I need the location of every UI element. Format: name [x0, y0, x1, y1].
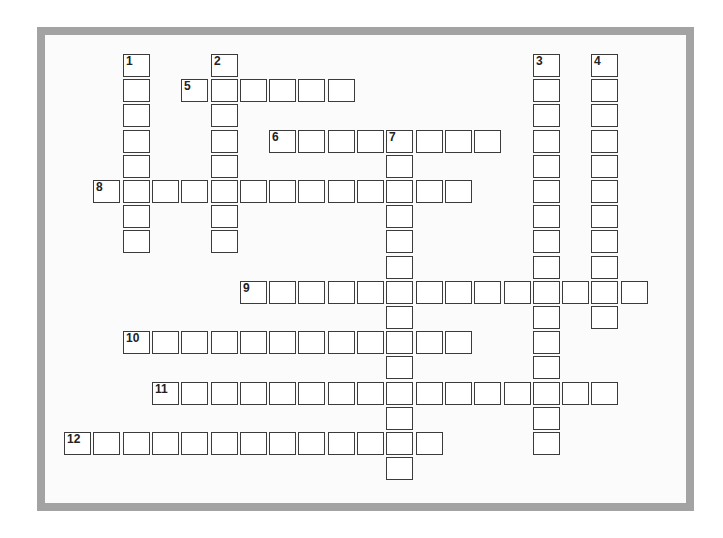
crossword-cell[interactable]	[328, 180, 355, 203]
crossword-cell[interactable]	[123, 432, 150, 455]
crossword-cell[interactable]	[123, 104, 150, 127]
crossword-cell[interactable]	[591, 281, 618, 304]
crossword-cell[interactable]	[211, 331, 238, 354]
crossword-cell[interactable]: 1	[123, 54, 150, 77]
crossword-cell[interactable]	[533, 104, 560, 127]
crossword-cell[interactable]	[416, 331, 443, 354]
crossword-cell[interactable]	[357, 382, 384, 405]
crossword-cell[interactable]	[357, 281, 384, 304]
crossword-cell[interactable]	[562, 382, 589, 405]
crossword-cell[interactable]	[123, 230, 150, 253]
crossword-cell[interactable]	[591, 205, 618, 228]
crossword-cell[interactable]	[211, 104, 238, 127]
crossword-cell[interactable]	[298, 79, 325, 102]
crossword-cell[interactable]	[240, 331, 267, 354]
crossword-cell[interactable]	[386, 407, 413, 430]
crossword-cell[interactable]	[328, 130, 355, 153]
crossword-cell[interactable]	[445, 331, 472, 354]
crossword-cell[interactable]	[211, 180, 238, 203]
crossword-cell[interactable]: 9	[240, 281, 267, 304]
crossword-cell[interactable]	[445, 180, 472, 203]
crossword-cell[interactable]: 3	[533, 54, 560, 77]
crossword-cell[interactable]	[386, 281, 413, 304]
crossword-cell[interactable]	[386, 230, 413, 253]
crossword-cell[interactable]	[386, 306, 413, 329]
crossword-cell[interactable]	[591, 230, 618, 253]
crossword-cell[interactable]	[152, 180, 179, 203]
crossword-cell[interactable]	[123, 79, 150, 102]
crossword-cell[interactable]	[328, 382, 355, 405]
crossword-cell[interactable]	[591, 155, 618, 178]
crossword-cell[interactable]	[240, 180, 267, 203]
crossword-cell[interactable]	[386, 331, 413, 354]
crossword-cell[interactable]	[386, 432, 413, 455]
crossword-cell[interactable]	[357, 130, 384, 153]
crossword-cell[interactable]	[416, 180, 443, 203]
crossword-cell[interactable]	[591, 382, 618, 405]
crossword-cell[interactable]	[357, 180, 384, 203]
crossword-cell[interactable]	[562, 281, 589, 304]
crossword-cell[interactable]	[386, 356, 413, 379]
crossword-cell[interactable]	[93, 432, 120, 455]
crossword-cell[interactable]	[386, 155, 413, 178]
crossword-cell[interactable]: 7	[386, 130, 413, 153]
crossword-cell[interactable]	[533, 155, 560, 178]
crossword-cell[interactable]	[298, 382, 325, 405]
crossword-cell[interactable]	[269, 432, 296, 455]
crossword-cell[interactable]	[591, 130, 618, 153]
crossword-cell[interactable]	[591, 256, 618, 279]
crossword-cell[interactable]	[416, 281, 443, 304]
crossword-cell[interactable]	[533, 205, 560, 228]
crossword-cell[interactable]	[211, 79, 238, 102]
crossword-cell[interactable]	[123, 130, 150, 153]
crossword-cell[interactable]	[123, 155, 150, 178]
crossword-cell[interactable]	[211, 230, 238, 253]
crossword-cell[interactable]	[328, 79, 355, 102]
crossword-cell[interactable]	[328, 281, 355, 304]
crossword-cell[interactable]	[123, 180, 150, 203]
crossword-cell[interactable]	[445, 281, 472, 304]
crossword-cell[interactable]	[298, 432, 325, 455]
crossword-cell[interactable]	[211, 382, 238, 405]
crossword-cell[interactable]	[298, 180, 325, 203]
crossword-cell[interactable]	[328, 432, 355, 455]
crossword-cell[interactable]	[357, 331, 384, 354]
crossword-cell[interactable]	[152, 432, 179, 455]
crossword-cell[interactable]	[533, 130, 560, 153]
crossword-cell[interactable]	[591, 180, 618, 203]
crossword-cell[interactable]	[533, 180, 560, 203]
crossword-cell[interactable]	[298, 331, 325, 354]
crossword-cell[interactable]	[533, 356, 560, 379]
crossword-cell[interactable]	[152, 331, 179, 354]
crossword-cell[interactable]	[416, 432, 443, 455]
crossword-cell[interactable]	[533, 256, 560, 279]
crossword-cell[interactable]	[298, 130, 325, 153]
crossword-cell[interactable]	[211, 155, 238, 178]
crossword-cell[interactable]	[591, 306, 618, 329]
crossword-cell[interactable]: 5	[181, 79, 208, 102]
crossword-cell[interactable]	[474, 281, 501, 304]
crossword-cell[interactable]	[416, 130, 443, 153]
crossword-cell[interactable]	[386, 457, 413, 480]
crossword-cell[interactable]	[211, 432, 238, 455]
crossword-cell[interactable]	[504, 281, 531, 304]
crossword-cell[interactable]: 12	[64, 432, 91, 455]
crossword-cell[interactable]	[269, 79, 296, 102]
crossword-cell[interactable]	[269, 331, 296, 354]
crossword-cell[interactable]	[211, 205, 238, 228]
crossword-cell[interactable]	[298, 281, 325, 304]
crossword-cell[interactable]	[357, 432, 384, 455]
crossword-cell[interactable]	[328, 331, 355, 354]
crossword-cell[interactable]	[123, 205, 150, 228]
crossword-cell[interactable]	[533, 281, 560, 304]
crossword-cell[interactable]	[533, 331, 560, 354]
crossword-cell[interactable]	[386, 180, 413, 203]
crossword-cell[interactable]	[445, 382, 472, 405]
crossword-cell[interactable]	[211, 130, 238, 153]
crossword-cell[interactable]	[181, 432, 208, 455]
crossword-cell[interactable]	[474, 130, 501, 153]
crossword-cell[interactable]	[240, 432, 267, 455]
crossword-cell[interactable]: 2	[211, 54, 238, 77]
crossword-cell[interactable]	[504, 382, 531, 405]
crossword-cell[interactable]: 11	[152, 382, 179, 405]
